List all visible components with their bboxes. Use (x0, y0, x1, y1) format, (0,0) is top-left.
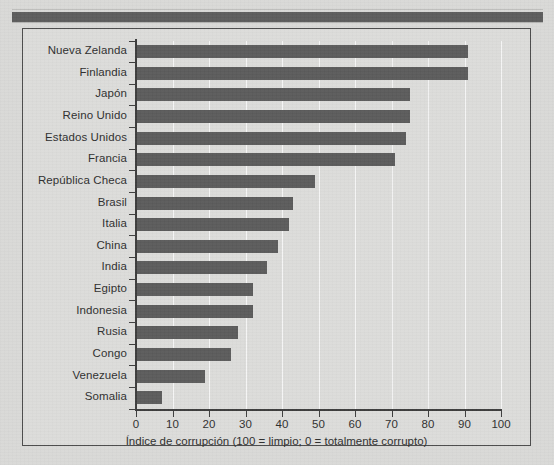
bar (136, 218, 289, 231)
y-axis-tick (129, 105, 135, 106)
bar (136, 197, 293, 210)
bar (136, 88, 410, 101)
y-axis-tick (129, 149, 135, 150)
category-label: Japón (95, 87, 127, 99)
category-label: Italia (102, 217, 127, 229)
x-axis-tick-label: 70 (385, 418, 398, 430)
x-axis-tick (355, 411, 356, 417)
bar-row (136, 149, 501, 171)
bar-row (136, 366, 501, 388)
chart-figure: Nueva ZelandaFinlandiaJapónReino UnidoEs… (22, 28, 531, 446)
category-label: Somalia (85, 390, 127, 402)
y-axis-tick (129, 409, 135, 410)
bar-row (136, 301, 501, 323)
bar (136, 67, 468, 80)
category-label: China (96, 239, 127, 251)
x-axis-tick (319, 411, 320, 417)
bar-row (136, 344, 501, 366)
x-axis-tick-label: 20 (203, 418, 216, 430)
x-axis-tick (282, 411, 283, 417)
y-axis-tick (129, 41, 135, 42)
x-axis-tick-label: 40 (276, 418, 289, 430)
bar-row (136, 236, 501, 258)
y-axis-category-labels: Nueva ZelandaFinlandiaJapónReino UnidoEs… (23, 41, 135, 409)
category-label: India (102, 260, 127, 272)
bar-row (136, 106, 501, 128)
y-axis-tick (129, 279, 135, 280)
y-axis-tick (129, 344, 135, 345)
bar-row (136, 387, 501, 409)
category-label: Estados Unidos (45, 131, 127, 143)
category-label: Nueva Zelanda (48, 44, 127, 56)
y-axis-tick (129, 257, 135, 258)
x-axis-tick-label: 50 (312, 418, 325, 430)
x-axis-tick-label: 10 (166, 418, 179, 430)
category-label: Francia (88, 152, 127, 164)
category-label: Finlandia (79, 66, 127, 78)
bar (136, 153, 395, 166)
x-axis-tick (173, 411, 174, 417)
bar (136, 132, 406, 145)
x-axis-tick-label: 90 (458, 418, 471, 430)
figure-page: Nueva ZelandaFinlandiaJapónReino UnidoEs… (0, 0, 554, 465)
category-label: Congo (93, 347, 127, 359)
top-rule-hairline (12, 9, 543, 10)
x-axis-tick-label: 100 (491, 418, 510, 430)
bar-row (136, 84, 501, 106)
bar-row (136, 171, 501, 193)
x-axis-tick (136, 411, 137, 417)
x-axis-tick-label: 80 (422, 418, 435, 430)
x-axis-tick (428, 411, 429, 417)
bar-row (136, 279, 501, 301)
y-axis-tick (129, 192, 135, 193)
y-axis-tick (129, 387, 135, 388)
category-label: Egipto (94, 282, 127, 294)
bar (136, 348, 231, 361)
category-label: Indonesia (76, 304, 127, 316)
y-axis-tick (129, 322, 135, 323)
y-axis-tick (129, 300, 135, 301)
y-axis-tick (129, 235, 135, 236)
category-label: República Checa (38, 174, 127, 186)
bar-row (136, 257, 501, 279)
x-axis-title: Índice de corrupción (100 = limpio; 0 = … (23, 435, 530, 447)
bar-row (136, 322, 501, 344)
category-label: Reino Unido (63, 109, 127, 121)
category-label: Venezuela (72, 369, 127, 381)
bar-row (136, 193, 501, 215)
category-label: Brasil (98, 196, 127, 208)
bar (136, 261, 267, 274)
bar (136, 175, 315, 188)
category-label: Rusia (97, 325, 127, 337)
bar-row (136, 128, 501, 150)
x-axis-tick-label: 30 (239, 418, 252, 430)
y-axis-tick (129, 365, 135, 366)
bar-row (136, 41, 501, 63)
bar (136, 326, 238, 339)
x-axis-tick (392, 411, 393, 417)
bar (136, 391, 162, 404)
bar (136, 240, 278, 253)
bar (136, 283, 253, 296)
x-axis-tick (501, 411, 502, 417)
x-axis-tick (465, 411, 466, 417)
y-axis-line (135, 39, 137, 411)
y-axis-tick (129, 170, 135, 171)
x-axis-tick (246, 411, 247, 417)
chart-plot-area (136, 41, 501, 409)
bar-row (136, 63, 501, 85)
x-axis-tick-label: 0 (133, 418, 139, 430)
y-axis-tick (129, 214, 135, 215)
bar (136, 45, 468, 58)
bar-row (136, 214, 501, 236)
y-axis-tick (129, 127, 135, 128)
x-axis-tick-label: 60 (349, 418, 362, 430)
gridline (501, 41, 502, 409)
bar (136, 110, 410, 123)
top-decorative-rule (12, 12, 543, 22)
y-axis-tick (129, 84, 135, 85)
y-axis-tick (129, 62, 135, 63)
x-axis-tick (209, 411, 210, 417)
bar (136, 370, 205, 383)
bar (136, 305, 253, 318)
